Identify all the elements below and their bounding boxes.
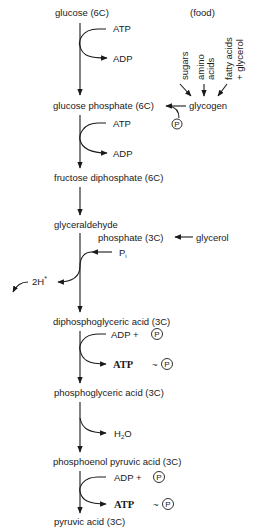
- atp-adp-curve-2: [80, 123, 107, 153]
- h2o-label: H2O: [114, 428, 132, 440]
- compound-glucose: glucose (6C): [55, 7, 109, 18]
- atp-label-4: ATP: [114, 499, 135, 510]
- food-source-glycerol: + glycerol: [234, 39, 245, 80]
- phosphate-circle-atp-2: P: [163, 499, 174, 510]
- compound-phosphoglyceric-acid: phosphoglyceric acid (3C): [54, 387, 164, 398]
- glycolysis-diagram: glucose (6C) glucose phosphate (6C) fruc…: [0, 0, 254, 532]
- adp-atp-curve-2: [80, 477, 106, 504]
- compound-glyceraldehyde: glyceraldehyde: [54, 219, 118, 230]
- atp-label-3: ATP: [113, 359, 134, 370]
- atp-label-2: ATP: [113, 118, 131, 129]
- svg-text:P: P: [156, 473, 161, 482]
- food-source-fatty-acids: fatty acids: [223, 37, 234, 80]
- adp-plus-label-2: ADP +: [114, 472, 142, 483]
- compound-phosphoenol-pyruvic-acid: phosphoenol pyruvic acid (3C): [53, 456, 181, 467]
- compound-glyceraldehyde-phosphate: phosphate (3C): [98, 232, 163, 243]
- adp-plus-label-1: ADP +: [111, 329, 139, 340]
- adp-label-2: ADP: [113, 148, 133, 159]
- phosphate-circle-adp-1: P: [152, 329, 163, 340]
- adp-atp-curve-1: [80, 334, 106, 364]
- atp-label-1: ATP: [113, 23, 131, 34]
- adp-label-1: ADP: [113, 53, 133, 64]
- svg-text:P: P: [154, 330, 159, 339]
- phosphate-circle-atp-1: P: [162, 359, 173, 370]
- atp-adp-curve-1: [79, 29, 107, 58]
- compound-pyruvic-acid: pyruvic acid (3C): [54, 516, 125, 527]
- compound-glucose-phosphate: glucose phosphate (6C): [53, 100, 154, 111]
- food-source-sugars: sugars: [179, 51, 190, 80]
- h2o-curve: [80, 418, 106, 433]
- svg-text:P: P: [165, 500, 170, 509]
- food-header: (food): [190, 7, 215, 18]
- phosphate-circle-glycogen: P: [172, 119, 182, 129]
- glycogen-label: glycogen: [189, 100, 227, 111]
- food-arrows: [180, 84, 227, 96]
- pi-label: Pi: [119, 247, 127, 259]
- svg-text:P: P: [164, 360, 169, 369]
- glycerol-label: glycerol: [196, 232, 229, 243]
- phosphate-circle-adp-2: P: [154, 472, 165, 483]
- pi-and-hydrogen-curve: [13, 252, 112, 292]
- compound-fructose-diphosphate: fructose diphosphate (6C): [54, 172, 163, 183]
- compound-diphosphoglyceric-acid: diphosphoglyceric acid (3C): [53, 316, 170, 327]
- hydrogen-label: 2H*: [32, 275, 47, 287]
- svg-text:P: P: [174, 120, 179, 129]
- tilde-1: ~: [152, 359, 158, 370]
- food-source-amino-acids: acids: [205, 58, 216, 80]
- glycogen-to-glucose-phosphate-arrow: [166, 106, 186, 118]
- tilde-2: ~: [153, 499, 159, 510]
